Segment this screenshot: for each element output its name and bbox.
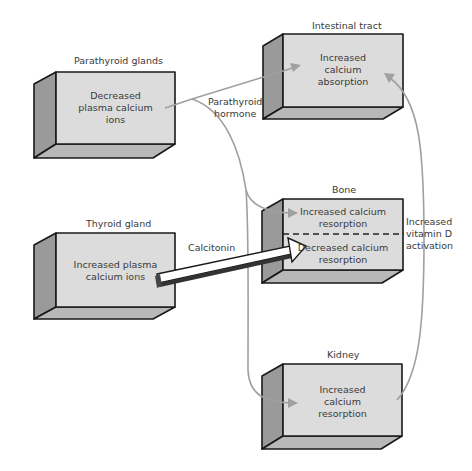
kidney-box-bottom xyxy=(262,436,402,449)
bone-upper-text-line: resorption xyxy=(283,218,403,230)
bone-lower-text-line: resorption xyxy=(283,254,403,266)
kidney-text-line: resorption xyxy=(283,408,402,420)
bone-upper-text: Increased calcium resorption xyxy=(283,206,403,230)
intestinal-title: Intestinal tract xyxy=(312,20,382,32)
vitamin-d-label: Increased vitamin D activation xyxy=(406,216,453,252)
thyroid-box-side xyxy=(34,233,56,319)
parathyroid-hormone-label: Parathyroid hormone xyxy=(208,96,262,120)
thyroid-text-line: calcium ions xyxy=(56,271,175,283)
parathyroid-box-side xyxy=(34,72,56,158)
vitamin-d-label-line: Increased xyxy=(406,216,453,228)
intestinal-box-bottom xyxy=(263,107,403,119)
parathyroid-text-line: Decreased xyxy=(56,90,175,102)
thyroid-text-line: Increased plasma xyxy=(56,259,175,271)
intestinal-text-line: absorption xyxy=(283,76,403,88)
kidney-text-line: calcium xyxy=(283,396,402,408)
vitamin-d-label-line: vitamin D xyxy=(406,228,453,240)
parathyroid-title: Parathyroid glands xyxy=(74,55,163,67)
calcitonin-label: Calcitonin xyxy=(188,242,235,254)
kidney-box-side xyxy=(262,364,283,449)
pth-label-line: hormone xyxy=(208,108,262,120)
bone-lower-text-line: Decreased calcium xyxy=(283,242,403,254)
intestinal-text-line: calcium xyxy=(283,64,403,76)
pth-label-line: Parathyroid xyxy=(208,96,262,108)
parathyroid-text-line: ions xyxy=(56,114,175,126)
kidney-text-line: Increased xyxy=(283,384,402,396)
bone-box-bottom xyxy=(262,270,403,283)
bone-upper-text-line: Increased calcium xyxy=(283,206,403,218)
intestinal-text-line: Increased xyxy=(283,52,403,64)
vitamin-d-label-line: activation xyxy=(406,240,453,252)
kidney-box-text: Increased calcium resorption xyxy=(283,384,402,420)
thyroid-box-bottom xyxy=(34,307,175,319)
thyroid-title: Thyroid gland xyxy=(86,218,151,230)
kidney-title: Kidney xyxy=(327,349,359,361)
intestinal-box-text: Increased calcium absorption xyxy=(283,52,403,88)
parathyroid-text-line: plasma calcium xyxy=(56,102,175,114)
parathyroid-box-bottom xyxy=(34,144,175,158)
bone-title: Bone xyxy=(332,184,356,196)
thyroid-box-text: Increased plasma calcium ions xyxy=(56,259,175,283)
bone-lower-text: Decreased calcium resorption xyxy=(283,242,403,266)
parathyroid-box-text: Decreased plasma calcium ions xyxy=(56,90,175,126)
